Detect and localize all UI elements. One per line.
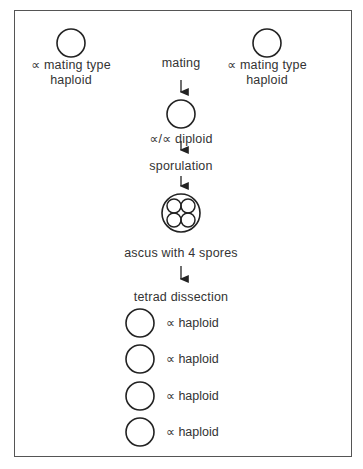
sporulation-label: sporulation (149, 159, 212, 174)
parent-haploid-cell-right (253, 29, 281, 57)
parent-left-label-line1: ∝ mating type (31, 58, 111, 73)
spore-cell-2 (126, 345, 154, 373)
spore-label-3: ∝ haploid (166, 389, 219, 404)
spore-cell-4 (126, 418, 154, 446)
tetrad-dissection-label: tetrad dissection (134, 290, 228, 305)
diploid-label: ∝/∝ diploid (149, 132, 212, 147)
parent-haploid-cell-left (57, 29, 85, 57)
ascus-label: ascus with 4 spores (124, 246, 238, 261)
mating-label: mating (162, 56, 201, 71)
diploid-cell (167, 100, 195, 128)
spore-label-4: ∝ haploid (166, 425, 219, 440)
ascus-icon (162, 194, 200, 232)
parent-right-label-line2: haploid (246, 73, 288, 88)
spore-label-2: ∝ haploid (166, 352, 219, 367)
spore-label-1: ∝ haploid (166, 316, 219, 331)
parent-left-label-line2: haploid (50, 73, 92, 88)
parent-right-label-line1: ∝ mating type (227, 58, 307, 73)
spore-cell-3 (126, 382, 154, 410)
spore-cell-1 (126, 309, 154, 337)
